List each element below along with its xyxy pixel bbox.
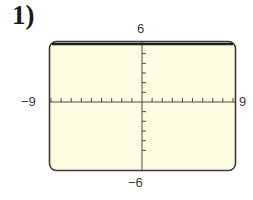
ymax-label: 6 bbox=[137, 22, 144, 35]
xmax-label: 9 bbox=[239, 95, 246, 108]
ymin-label: −6 bbox=[128, 176, 143, 189]
xmin-label: −9 bbox=[21, 95, 36, 108]
graph-window bbox=[0, 0, 253, 200]
